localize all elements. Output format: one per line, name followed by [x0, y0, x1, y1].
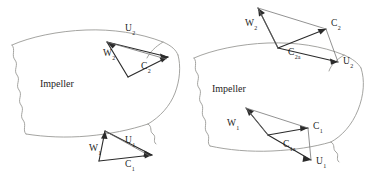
left-impeller-outline — [12, 30, 180, 144]
subscript-c: 2 — [338, 25, 341, 31]
subscript-w: 2 — [112, 55, 115, 61]
right-inlet-w-label: W1 — [227, 119, 239, 130]
symbol-u: U — [343, 56, 350, 66]
subscript-u: 1 — [323, 163, 326, 169]
subscript-w: 1 — [236, 125, 239, 131]
symbol-u: U — [316, 156, 323, 166]
left-outlet-triangle-vectors — [107, 42, 168, 77]
subscript-w: 2 — [254, 25, 257, 31]
subscript-c: 1 — [320, 128, 323, 134]
subscript-u: 2 — [350, 63, 353, 69]
symbol-u: U — [125, 23, 132, 33]
right-inlet-triangle-vectors — [246, 108, 311, 162]
impeller-velocity-triangle-figure: Impeller U2 W2 C2 U1 W1 C1 Impeller W2 C… — [0, 0, 379, 179]
right-outlet-ca-label: C2a — [288, 48, 300, 59]
symbol-w: W — [227, 118, 236, 128]
symbol-ca: C — [288, 47, 294, 57]
left-outlet-u-label: U2 — [125, 24, 135, 35]
symbol-w: W — [245, 18, 254, 28]
figure-vector-canvas — [0, 0, 379, 179]
symbol-c: C — [331, 18, 337, 28]
symbol-c: C — [313, 121, 319, 131]
left-impeller-body-label: Impeller — [40, 79, 74, 89]
subscript-c: 2 — [148, 68, 151, 74]
left-outlet-c-label: C2 — [141, 62, 151, 73]
symbol-u: U — [125, 135, 132, 145]
left-outlet-w-label: W2 — [103, 49, 115, 60]
subscript-u: 1 — [132, 142, 135, 148]
symbol-w: W — [103, 48, 112, 58]
right-inlet-ca-label: C1a — [283, 140, 295, 151]
right-inlet-c-label: C1 — [313, 122, 323, 133]
symbol-c: C — [125, 159, 131, 169]
subscript-c: 1 — [132, 166, 135, 172]
right-outlet-w-label: W2 — [245, 19, 257, 30]
left-inlet-c-label: C1 — [125, 160, 135, 171]
right-impeller-outline — [194, 43, 363, 162]
right-outlet-u-label: U2 — [343, 57, 353, 68]
left-inlet-u-label: U1 — [125, 136, 135, 147]
symbol-w: W — [89, 143, 98, 153]
subscript-ca: 2a — [295, 54, 301, 60]
subscript-u: 2 — [132, 30, 135, 36]
right-impeller-body-label: Impeller — [212, 84, 246, 94]
right-outlet-c-label: C2 — [331, 19, 341, 30]
left-inlet-w-label: W1 — [89, 144, 101, 155]
right-inlet-u-label: U1 — [316, 157, 326, 168]
symbol-ca: C — [283, 139, 289, 149]
subscript-w: 1 — [98, 150, 101, 156]
subscript-ca: 1a — [290, 146, 296, 152]
symbol-c: C — [141, 61, 147, 71]
